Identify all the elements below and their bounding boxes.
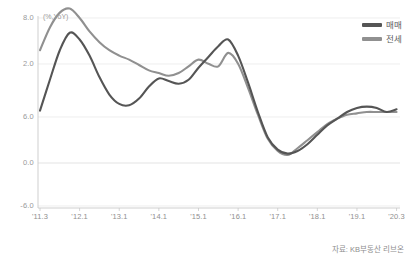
legend-item-label: 매매	[386, 20, 402, 30]
x-axis-tick-label: '12.1	[64, 212, 96, 221]
x-axis-tick-label: '15.1	[182, 212, 214, 221]
x-axis-tick-label: '14.1	[143, 212, 175, 221]
legend-item-jeonse[interactable]: 전세	[362, 34, 402, 44]
series-line-jeonse	[40, 8, 397, 155]
series-line-maemae	[40, 32, 397, 153]
y-axis-tick-label: -6.0	[4, 201, 34, 210]
x-axis-tick-label: '20.3	[381, 212, 412, 221]
y-axis-unit-label: (%,YoY)	[43, 13, 68, 20]
x-axis-tick-label: '19.1	[341, 212, 373, 221]
y-axis-tick-label: 6.0	[4, 112, 34, 121]
legend-color-swatch	[362, 23, 382, 27]
chart-source-note: 자료: KB부동산 리브온	[332, 243, 404, 254]
x-axis-tick-label: '17.1	[262, 212, 294, 221]
legend-item-label: 전세	[386, 34, 402, 44]
y-axis-tick-label: 0.0	[4, 158, 34, 167]
y-axis-tick-label: 8.0	[4, 13, 34, 22]
x-axis-tick-label: '11.3	[24, 212, 56, 221]
y-axis-tick-label: 2.0	[4, 59, 34, 68]
x-axis-tick-label: '18.1	[301, 212, 333, 221]
chart-legend: 매매 전세	[362, 20, 402, 44]
legend-item-maemae[interactable]: 매매	[362, 20, 402, 30]
chart-container: (%,YoY) 8.02.06.00.0-6.0 '11.3'12.1'13.1…	[0, 0, 412, 262]
chart-plot-svg	[0, 0, 412, 262]
x-axis-tick-label: '16.1	[222, 212, 254, 221]
legend-color-swatch	[362, 37, 382, 41]
x-axis-tick-label: '13.1	[103, 212, 135, 221]
